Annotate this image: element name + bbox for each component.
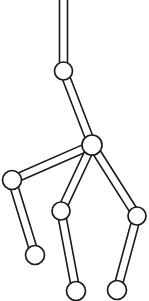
skeleton-diagram [0, 0, 149, 301]
middle-limb-joint[interactable] [52, 202, 70, 220]
right-limb-joint[interactable] [128, 207, 146, 225]
right-limb-end[interactable] [108, 281, 127, 300]
left-limb-joint[interactable] [3, 171, 22, 190]
hub-joint[interactable] [82, 135, 102, 155]
figure-canvas [0, 0, 149, 301]
middle-limb-end[interactable] [67, 282, 86, 301]
left-limb-end[interactable] [26, 246, 45, 265]
upper-joint[interactable] [55, 62, 73, 80]
